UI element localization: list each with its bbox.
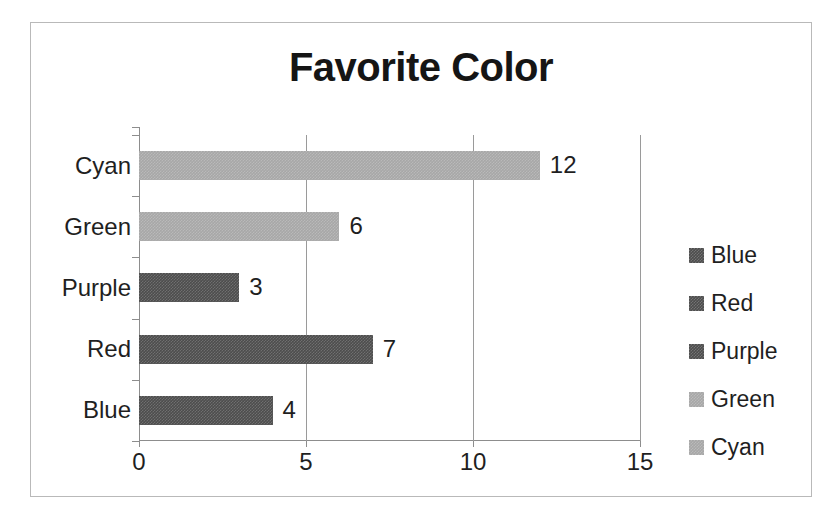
y-axis-tick	[132, 127, 139, 128]
chart-frame: Favorite Color BlueRedPurpleGreenCyan 47…	[30, 22, 812, 497]
legend-item-red[interactable]: Red	[689, 289, 753, 317]
bar-green[interactable]	[139, 212, 339, 241]
bar-value-label: 7	[383, 334, 396, 364]
legend-item-purple[interactable]: Purple	[689, 337, 777, 365]
gridline	[640, 135, 641, 441]
bar-value-label: 12	[550, 150, 577, 180]
y-axis-category-label: Red	[87, 334, 131, 364]
legend-label: Purple	[711, 337, 777, 365]
y-axis-tick	[132, 319, 139, 320]
legend-swatch-icon	[689, 296, 704, 311]
bar-band: 3	[139, 257, 640, 318]
x-axis-tick-label: 5	[299, 447, 312, 477]
legend-item-blue[interactable]: Blue	[689, 241, 757, 269]
legend-item-cyan[interactable]: Cyan	[689, 433, 765, 461]
bar-value-label: 3	[249, 272, 262, 302]
x-axis-labels: 051015	[139, 447, 640, 487]
bar-band: 12	[139, 135, 640, 196]
bar-band: 4	[139, 380, 640, 441]
chart-legend: BlueRedPurpleGreenCyan	[689, 131, 809, 451]
bar-band: 6	[139, 196, 640, 257]
y-axis-tick	[132, 441, 139, 442]
y-axis-category-label: Green	[64, 212, 131, 242]
legend-label: Red	[711, 289, 753, 317]
y-axis-category-label: Cyan	[75, 151, 131, 181]
legend-label: Blue	[711, 241, 757, 269]
legend-swatch-icon	[689, 392, 704, 407]
bar-value-label: 6	[349, 211, 362, 241]
x-axis-tick-label: 10	[460, 447, 487, 477]
y-axis-category-label: Blue	[83, 395, 131, 425]
y-axis-category-label: Purple	[62, 273, 131, 303]
legend-swatch-icon	[689, 344, 704, 359]
x-axis-tick-label: 0	[132, 447, 145, 477]
legend-item-green[interactable]: Green	[689, 385, 775, 413]
legend-label: Cyan	[711, 433, 765, 461]
bar-purple[interactable]	[139, 273, 239, 302]
x-axis-tick-label: 15	[627, 447, 654, 477]
legend-label: Green	[711, 385, 775, 413]
bar-band: 7	[139, 319, 640, 380]
y-axis-tick	[132, 380, 139, 381]
plot-area: 473612	[139, 135, 640, 441]
y-axis-tick	[132, 196, 139, 197]
y-axis-labels: BlueRedPurpleGreenCyan	[31, 135, 131, 441]
chart-title: Favorite Color	[31, 45, 811, 90]
bar-value-label: 4	[283, 395, 296, 425]
bar-red[interactable]	[139, 335, 373, 364]
legend-swatch-icon	[689, 248, 704, 263]
bar-blue[interactable]	[139, 396, 273, 425]
bar-cyan[interactable]	[139, 151, 540, 180]
legend-swatch-icon	[689, 440, 704, 455]
y-axis-tick	[132, 257, 139, 258]
y-axis-tick	[132, 135, 139, 136]
